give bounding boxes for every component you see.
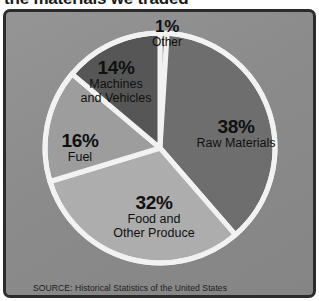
chart-panel: 1% Other 14% Machines and Vehicles 38% R… bbox=[3, 9, 316, 298]
slice-percent-food-and-other-produce: 32% bbox=[88, 193, 220, 212]
slice-label-food-and-other-produce: 32% Food and Other Produce bbox=[88, 193, 220, 240]
slice-percent-machines-and-vehicles: 14% bbox=[61, 58, 171, 77]
slice-name-food-line2: Other Produce bbox=[88, 227, 220, 240]
figure-title-text: the materials we traded bbox=[4, 0, 188, 9]
figure-title-cropped: the materials we traded bbox=[0, 0, 319, 9]
slice-name-other: Other bbox=[124, 36, 210, 48]
slice-label-machines-and-vehicles: 14% Machines and Vehicles bbox=[61, 58, 171, 105]
slice-percent-fuel: 16% bbox=[38, 131, 122, 150]
slice-label-raw-materials: 38% Raw Materials bbox=[178, 117, 294, 150]
slice-label-other: 1% Other bbox=[124, 18, 210, 49]
slice-name-raw-materials: Raw Materials bbox=[178, 137, 294, 150]
slice-name-food-line1: Food and bbox=[88, 213, 220, 226]
slice-name-machines-line2: and Vehicles bbox=[61, 92, 171, 105]
source-note: SOURCE: Historical Statistics of the Uni… bbox=[33, 283, 227, 293]
slice-percent-raw-materials: 38% bbox=[178, 117, 294, 136]
pie-chart-figure: the materials we traded 1% Other 14% Mac… bbox=[0, 0, 319, 301]
slice-name-fuel: Fuel bbox=[38, 151, 122, 164]
slice-label-fuel: 16% Fuel bbox=[38, 131, 122, 164]
slice-percent-other: 1% bbox=[124, 18, 210, 35]
slice-name-machines-line1: Machines bbox=[61, 78, 171, 91]
